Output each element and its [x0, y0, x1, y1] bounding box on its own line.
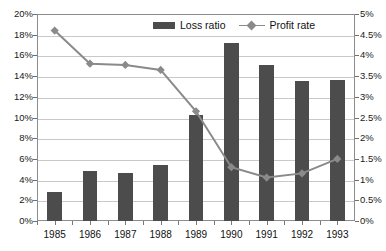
y-axis-right-tickmark — [355, 35, 359, 36]
x-axis-tickmark — [178, 221, 179, 225]
y-axis-left-tickmark — [33, 200, 37, 201]
y-axis-left-tickmark — [33, 76, 37, 77]
y-axis-right-tickmark — [355, 97, 359, 98]
y-axis-right-tick: 2.5% — [360, 113, 386, 123]
legend-label-profit-rate: Profit rate — [270, 19, 316, 31]
y-axis-right-tickmark — [355, 159, 359, 160]
x-axis-tickmark — [284, 221, 285, 225]
y-axis-left-tick: 20% — [0, 9, 33, 19]
y-axis-right-tick: 4.5% — [360, 30, 386, 40]
legend-item-loss-ratio: Loss ratio — [153, 19, 226, 31]
y-axis-left-tick: 10% — [0, 113, 33, 123]
x-axis-minor-tickmark — [125, 221, 126, 225]
x-axis-minor-tickmark — [55, 221, 56, 225]
x-axis-minor-tickmark — [302, 221, 303, 225]
x-axis-minor-tickmark — [337, 221, 338, 225]
y-axis-left-tickmark — [33, 97, 37, 98]
y-axis-right-tickmark — [355, 55, 359, 56]
y-axis-left-tickmark — [33, 138, 37, 139]
profit-rate-line — [55, 31, 338, 178]
chart-legend: Loss ratio Profit rate — [150, 18, 318, 32]
x-axis-minor-tickmark — [90, 221, 91, 225]
y-axis-left-tick: 8% — [0, 133, 33, 143]
y-axis-right-tickmark — [355, 14, 359, 15]
bar-swatch-icon — [153, 22, 175, 29]
x-axis-tickmark — [249, 221, 250, 225]
y-axis-left-tick: 18% — [0, 30, 33, 40]
y-axis-right-tick: 1.5% — [360, 154, 386, 164]
y-axis-left-tick: 14% — [0, 71, 33, 81]
y-axis-right-tickmark — [355, 138, 359, 139]
y-axis-right-tick: 2% — [360, 133, 386, 143]
y-axis-right-tick: 3% — [360, 92, 386, 102]
x-axis-tickmark — [72, 221, 73, 225]
y-axis-left-tickmark — [33, 55, 37, 56]
y-axis-left-tick: 6% — [0, 154, 33, 164]
y-axis-right-tick: 0% — [360, 216, 386, 226]
data-point-marker — [298, 169, 306, 177]
x-axis-tickmark — [108, 221, 109, 225]
legend-item-profit-rate: Profit rate — [239, 19, 316, 31]
data-point-marker — [121, 61, 129, 69]
y-axis-left-tickmark — [33, 180, 37, 181]
y-axis-right-tick: 0.5% — [360, 195, 386, 205]
x-axis-tickmark — [143, 221, 144, 225]
y-axis-right-tick: 3.5% — [360, 71, 386, 81]
x-axis-minor-tickmark — [196, 221, 197, 225]
y-axis-left-tick: 0% — [0, 216, 33, 226]
y-axis-left-tickmark — [33, 35, 37, 36]
x-axis-minor-tickmark — [231, 221, 232, 225]
y-axis-right-tickmark — [355, 180, 359, 181]
y-axis-right-tickmark — [355, 76, 359, 77]
x-axis-minor-tickmark — [267, 221, 268, 225]
y-axis-right-tick: 1% — [360, 175, 386, 185]
line-diamond-icon — [239, 21, 265, 30]
x-axis-tick: 1993 — [312, 229, 362, 241]
y-axis-right-tickmark — [355, 221, 359, 222]
y-axis-left-tick: 16% — [0, 50, 33, 60]
legend-label-loss-ratio: Loss ratio — [180, 19, 226, 31]
x-axis-tickmark — [214, 221, 215, 225]
y-axis-right-tick: 4% — [360, 50, 386, 60]
y-axis-left-tick: 2% — [0, 195, 33, 205]
y-axis-right-tick: 5% — [360, 9, 386, 19]
y-axis-left-tick: 4% — [0, 175, 33, 185]
x-axis-minor-tickmark — [161, 221, 162, 225]
y-axis-left-tickmark — [33, 118, 37, 119]
data-point-marker — [263, 173, 271, 181]
y-axis-left-tickmark — [33, 14, 37, 15]
y-axis-left-tick: 12% — [0, 92, 33, 102]
x-axis-tickmark — [37, 221, 38, 225]
x-axis-tickmark — [320, 221, 321, 225]
y-axis-right-tickmark — [355, 200, 359, 201]
data-point-marker — [333, 155, 341, 163]
y-axis-left-tickmark — [33, 159, 37, 160]
y-axis-right-tickmark — [355, 118, 359, 119]
